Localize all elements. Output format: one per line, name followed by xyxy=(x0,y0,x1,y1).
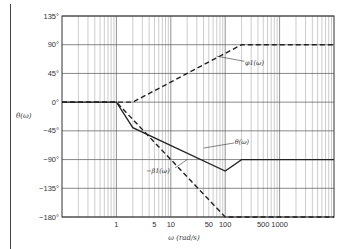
annotation-label: θ(ω) xyxy=(235,138,250,146)
grid xyxy=(62,16,334,217)
x-tick-labels: 1510501005001000 xyxy=(114,220,288,229)
x-tick-label: 1000 xyxy=(271,220,288,229)
x-tick-label: 10 xyxy=(167,220,175,229)
x-tick-label: 5 xyxy=(152,220,156,229)
theta-curve xyxy=(62,102,334,171)
x-axis-label: ω (rad/s) xyxy=(168,234,200,242)
x-tick-label: 100 xyxy=(219,220,232,229)
y-tick-label: −45° xyxy=(43,126,59,135)
x-tick-label: 1 xyxy=(114,220,118,229)
x-tick-label: 500 xyxy=(257,220,270,229)
y-tick-label: 45° xyxy=(48,69,59,78)
annotation-label: −β1(ω) xyxy=(146,167,170,175)
annotations: φ1(ω)θ(ω)−β1(ω) xyxy=(146,56,264,175)
y-tick-labels: 135°90°45°0°−45°−90°−135°−180° xyxy=(39,12,59,222)
x-tick-label: 50 xyxy=(205,220,213,229)
annotation-leader-line xyxy=(217,56,245,61)
y-tick-label: 90° xyxy=(48,40,59,49)
y-tick-label: 135° xyxy=(43,12,59,21)
annotation-leader-line xyxy=(175,160,187,168)
y-tick-label: 0° xyxy=(52,98,59,107)
annotation-leader-line xyxy=(204,143,234,148)
y-tick-label: −180° xyxy=(39,213,59,222)
y-tick-label: −90° xyxy=(43,155,59,164)
bode-phase-chart: 135°90°45°0°−45°−90°−135°−180° 151050100… xyxy=(0,0,352,249)
annotation-label: φ1(ω) xyxy=(245,59,265,67)
y-tick-label: −135° xyxy=(39,184,59,193)
plot-frame xyxy=(62,16,334,217)
y-axis-label: θ(ω) xyxy=(16,112,32,120)
